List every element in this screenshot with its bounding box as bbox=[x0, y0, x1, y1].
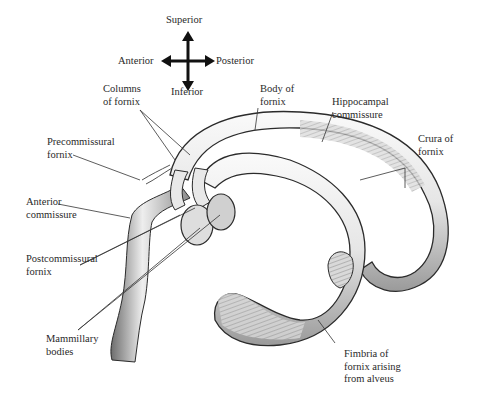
label-crura-of-fornix: Crura of fornix bbox=[418, 133, 453, 158]
label-columns-of-fornix: Columns of fornix bbox=[103, 83, 141, 108]
fornix-diagram: Superior Inferior Anterior Posterior Col… bbox=[0, 0, 479, 407]
orientation-inferior-label: Inferior bbox=[171, 86, 203, 99]
orientation-arrows-icon bbox=[161, 31, 215, 91]
label-anterior-commissure: Anterior commissure bbox=[26, 196, 77, 221]
label-mammillary-bodies: Mammillary bodies bbox=[46, 333, 99, 358]
label-postcommissural-fornix: Postcommissural fornix bbox=[26, 253, 98, 278]
orientation-superior-label: Superior bbox=[166, 14, 202, 27]
label-body-of-fornix: Body of fornix bbox=[260, 83, 294, 108]
label-hippocampal-commissure: Hippocampal commissure bbox=[332, 96, 389, 121]
label-precommissural-fornix: Precommissural fornix bbox=[47, 136, 115, 161]
crus-fimbria-shape bbox=[200, 153, 365, 345]
orientation-posterior-label: Posterior bbox=[216, 55, 254, 68]
label-fimbria-of-fornix: Fimbria of fornix arising from alveus bbox=[344, 348, 401, 386]
orientation-anterior-label: Anterior bbox=[118, 55, 154, 68]
